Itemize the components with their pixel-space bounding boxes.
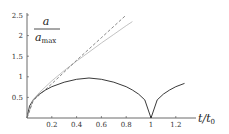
- x-tick-label: 0.2: [46, 121, 57, 129]
- series-group: [27, 15, 185, 118]
- y-tick-label: 0.5: [12, 94, 23, 102]
- x-tick-label: 1.2: [170, 121, 181, 129]
- y-tick-label: 2: [19, 32, 23, 40]
- y-axis-label: a amax: [34, 15, 60, 45]
- y-tick-label: 2.5: [12, 12, 23, 20]
- y-label-denominator: amax: [35, 31, 56, 45]
- y-label-numerator: a: [43, 15, 50, 28]
- x-tick-label: 0.6: [96, 121, 108, 129]
- chart: 0.20.40.60.811.2 0.511.522.5 a amax t/t0: [0, 0, 229, 134]
- x-tick-label: 1: [149, 121, 153, 129]
- series-line: [27, 15, 126, 118]
- x-tick-label: 0.8: [121, 121, 132, 129]
- series-line: [27, 78, 185, 118]
- y-ticks: 0.511.522.5: [12, 12, 29, 102]
- svg-text:t/t0: t/t0: [198, 112, 215, 126]
- x-tick-label: 0.4: [71, 121, 83, 129]
- y-tick-label: 1.5: [12, 53, 23, 61]
- x-axis-label: t/t0: [198, 112, 215, 126]
- y-tick-label: 1: [19, 73, 23, 81]
